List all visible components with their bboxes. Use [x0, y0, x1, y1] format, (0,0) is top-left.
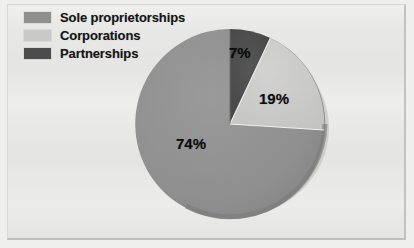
- legend-label-partnerships: Partnerships: [60, 46, 138, 61]
- legend-item-corporations: Corporations: [24, 27, 185, 44]
- pie-chart-figure: 7% 19% 74% Sole proprietorships Corporat…: [0, 0, 414, 248]
- legend-item-sole-proprietorships: Sole proprietorships: [24, 9, 185, 26]
- chart-legend: Sole proprietorships Corporations Partne…: [24, 9, 185, 63]
- legend-item-partnerships: Partnerships: [24, 45, 185, 62]
- legend-swatch-corporations-icon: [24, 30, 51, 41]
- legend-swatch-sole-proprietorships-icon: [24, 12, 51, 23]
- legend-label-corporations: Corporations: [60, 28, 140, 43]
- pie-value-label-partnerships: 7%: [229, 44, 251, 61]
- pie-value-label-sole-proprietorships: 74%: [176, 135, 206, 152]
- legend-label-sole-proprietorships: Sole proprietorships: [60, 10, 185, 25]
- pie-value-label-corporations: 19%: [259, 90, 289, 107]
- legend-swatch-partnerships-icon: [24, 48, 51, 59]
